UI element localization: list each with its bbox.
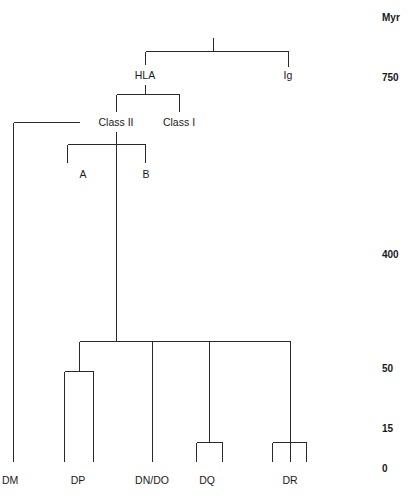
scale-tick-400: 400 (382, 249, 399, 260)
scale-tick-15: 15 (382, 423, 394, 434)
phylogenetic-tree-figure: HLA Ig Class II Class I A B (0, 0, 413, 497)
node-label-hla: HLA (135, 69, 155, 81)
node-label-chain-b: B (142, 168, 149, 180)
node-label-class-two: Class II (98, 116, 133, 128)
tip-label-dp: DP (71, 474, 86, 486)
scale-tick-50: 50 (382, 363, 394, 374)
hla-ig-branches (146, 52, 289, 68)
root-node-group (146, 38, 289, 52)
tip-label-dndo: DN/DO (135, 474, 169, 486)
node-label-class-one: Class I (163, 116, 195, 128)
tree-canvas: HLA Ig Class II Class I A B (0, 0, 413, 497)
scale-tick-0: 0 (382, 463, 388, 474)
dm-lineage-branch (14, 123, 81, 463)
tip-label-dr: DR (282, 474, 298, 486)
tip-label-dq: DQ (199, 474, 215, 486)
class2-trunk-group (80, 132, 291, 342)
tip-label-dm: DM (2, 474, 18, 486)
dq-clade-group (197, 342, 223, 463)
node-label-chain-a: A (79, 168, 86, 180)
hla-children-branches (117, 85, 180, 112)
dp-clade-group (65, 342, 94, 463)
chain-ab-branches (68, 132, 146, 163)
scale-tick-750: 750 (382, 72, 399, 83)
node-label-ig: Ig (284, 69, 293, 81)
dr-clade-group (273, 342, 307, 463)
scale-header-myr: Myr (382, 12, 400, 23)
